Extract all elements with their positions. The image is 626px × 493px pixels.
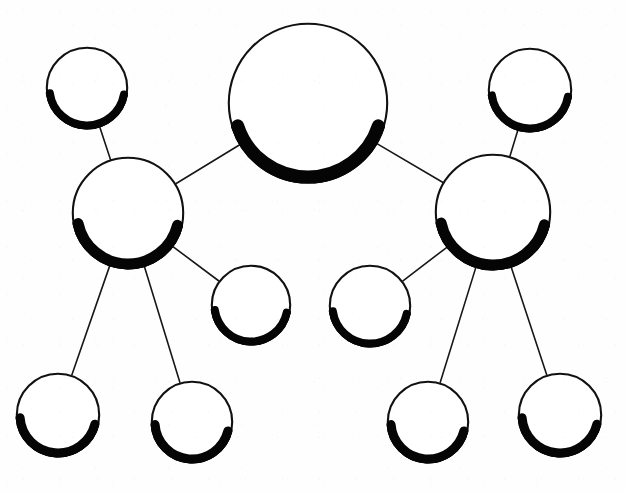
edge-hubleft-bot2 xyxy=(145,267,180,382)
edge-root-hub-left xyxy=(176,145,239,184)
edge-hubleft-midleft xyxy=(173,247,218,281)
edge-hubright-topright xyxy=(510,131,518,156)
edge-hubleft-topleft xyxy=(100,127,110,159)
edge-hubleft-bot1 xyxy=(72,266,110,374)
node-link-diagram xyxy=(0,0,626,493)
edge-hubright-bot4 xyxy=(511,268,546,375)
diagram-canvas xyxy=(0,0,626,493)
node-layer xyxy=(17,24,601,462)
edge-hubright-midright xyxy=(403,248,447,281)
edge-root-hub-right xyxy=(377,144,442,182)
edge-hubright-bot3 xyxy=(440,268,475,382)
